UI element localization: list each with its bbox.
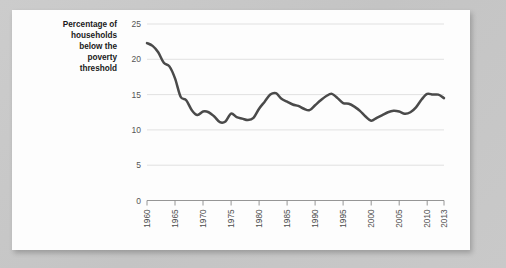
x-tick-label: 1975	[227, 209, 236, 228]
y-axis-title-line-5: threshold	[80, 64, 117, 73]
y-axis-title: Percentage of households below the pover…	[63, 20, 118, 73]
x-tick-label: 1985	[283, 209, 292, 228]
x-tick-label: 1965	[171, 209, 180, 228]
x-tick-label: 2010	[423, 209, 432, 228]
y-tick-label: 25	[132, 19, 142, 29]
poverty-rate-line-chart: Percentage of households below the pover…	[12, 10, 470, 250]
gridlines	[147, 24, 444, 165]
y-tick-label: 20	[132, 54, 142, 64]
y-axis-title-line-4: poverty	[87, 53, 117, 62]
y-axis-title-line-1: Percentage of	[63, 20, 117, 29]
x-tick-label: 2000	[367, 209, 376, 228]
x-tick-label: 1995	[339, 209, 348, 228]
y-tick-label: 10	[132, 125, 142, 135]
y-tick-label: 0	[136, 196, 141, 206]
poverty-rate-series-line	[147, 43, 444, 123]
x-tick-label: 2005	[395, 209, 404, 228]
x-tick-label: 2013	[440, 209, 449, 228]
y-tick-label: 5	[136, 160, 141, 170]
x-tick-label: 1960	[143, 209, 152, 228]
y-tick-label: 15	[132, 90, 142, 100]
x-tick-label: 1990	[311, 209, 320, 228]
chart-card: Percentage of households below the pover…	[12, 10, 470, 250]
x-tick-labels: 1960196519701975198019851990199520002005…	[143, 209, 449, 228]
x-tick-label: 1980	[255, 209, 264, 228]
x-tick-label: 1970	[199, 209, 208, 228]
y-axis-title-line-3: below the	[79, 42, 117, 51]
y-tick-labels: 0510152025	[132, 19, 142, 206]
y-axis-title-line-2: households	[71, 31, 117, 40]
chart-svg: Percentage of households below the pover…	[12, 10, 470, 250]
x-axis-tickmarks	[147, 201, 444, 206]
